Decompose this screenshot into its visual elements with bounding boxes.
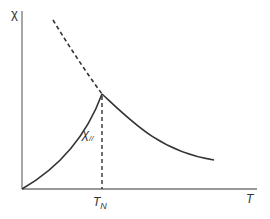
chi-parallel-label: χ// <box>81 126 94 143</box>
tn-tick-label: TN <box>93 195 107 211</box>
y-axis-label: χ <box>11 6 18 21</box>
susceptibility-chart: χ T TN χ// <box>0 0 270 219</box>
x-axis-label: T <box>246 192 255 206</box>
curie-weiss-decay-curve <box>102 94 214 160</box>
curie-weiss-dashed-curve <box>53 20 102 94</box>
